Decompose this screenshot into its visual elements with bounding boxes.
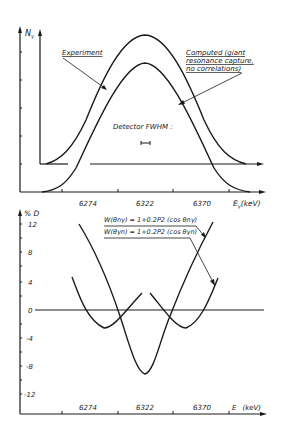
bottom-xlabel: E(keV) (232, 404, 261, 412)
top-xtick-6322: 6322 (136, 200, 154, 208)
ytick-0: 0 (28, 307, 33, 315)
formula-2-arrowhead-icon (210, 279, 215, 286)
top-outer-y-arrow-icon (18, 26, 22, 33)
computed-pointer-line (180, 73, 242, 104)
ytick-minus-12: -12 (24, 391, 36, 399)
top-ylabel: Nγ (25, 29, 35, 40)
ytick-4: 4 (28, 279, 32, 287)
top-xtick-6274: 6274 (79, 200, 97, 208)
bottom-ylabel: % D (24, 209, 40, 218)
bottom-chart: % D 12 8 4 0 -4 -8 -12 (18, 209, 267, 416)
ytick-12: 12 (28, 221, 37, 229)
top-inner-y-arrow-icon (38, 29, 42, 36)
label-experiment: Experiment (62, 49, 103, 57)
ytick-minus-8: -8 (26, 363, 34, 371)
bottom-x-arrow-icon (260, 412, 267, 416)
label-computed-line1: Computed (giant (186, 49, 245, 57)
formula-w-theta-n-gamma: W(θnγ) = 1+0.2P2 (cos θnγ) (104, 216, 197, 224)
formula-w-theta-gamma-n: W(θγn) = 1+0.2P2 (cos θγn) (104, 228, 197, 236)
bottom-xtick-6322: 6322 (136, 404, 154, 412)
label-detector-fwhm: Detector FWHM : (113, 123, 173, 131)
experiment-pointer-line (63, 58, 106, 89)
top-xlabel: Eγ(keV) (233, 199, 261, 210)
bottom-y-arrow-icon (18, 209, 22, 216)
top-inner-x-arrow-icon (257, 162, 264, 166)
bottom-xtick-6370: 6370 (193, 404, 211, 412)
curve-w-theta-gamma-n (72, 277, 218, 328)
label-computed-line3: no correlations) (186, 65, 241, 73)
top-xtick-6370: 6370 (193, 200, 211, 208)
figure: Nγ 6274 6322 6370 Eγ(keV) Experiment Com… (0, 0, 281, 440)
fwhm-bar-icon (141, 141, 150, 145)
top-outer-x-arrow-icon (259, 190, 266, 194)
top-chart: Nγ 6274 6322 6370 Eγ(keV) Experiment Com… (18, 26, 266, 210)
ytick-minus-4: -4 (26, 335, 33, 343)
bottom-xtick-6274: 6274 (79, 404, 97, 412)
label-computed-line2: resonance capture, (186, 57, 254, 65)
ytick-8: 8 (28, 249, 33, 257)
curve-w-theta-n-gamma (79, 222, 213, 374)
